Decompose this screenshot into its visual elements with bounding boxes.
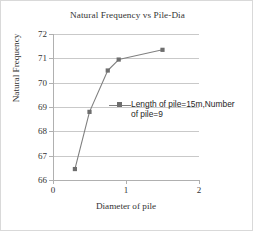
data-point [106, 68, 110, 72]
y-tick-label-71: 71 [27, 53, 47, 63]
y-tick-label-67: 67 [27, 151, 47, 161]
y-axis-line [53, 34, 54, 181]
y-tick-mark-70 [49, 83, 53, 84]
y-tick-label-66: 66 [27, 175, 47, 185]
y-tick-mark-68 [49, 131, 53, 132]
y-tick-mark-67 [49, 156, 53, 157]
data-point [160, 48, 164, 52]
x-tick-mark-2 [199, 180, 200, 184]
y-tick-mark-72 [49, 34, 53, 35]
legend-label-line1: Length of pile=15m,Number [131, 99, 235, 109]
y-tick-label-68: 68 [27, 126, 47, 136]
y-tick-mark-71 [49, 58, 53, 59]
y-tick-mark-69 [49, 107, 53, 108]
x-tick-mark-0 [53, 180, 54, 184]
x-tick-mark-1 [126, 180, 127, 184]
data-point [117, 57, 121, 61]
y-axis-title: Natural Frequency [11, 8, 21, 128]
x-tick-label-1: 1 [116, 185, 136, 195]
chart-legend: Length of pile=15m,Number of pile=9 [109, 99, 239, 119]
x-tick-label-0: 0 [43, 185, 63, 195]
y-tick-label-70: 70 [27, 78, 47, 88]
chart-title: Natural Frequency vs Pile-Dia [1, 10, 253, 20]
x-axis-title: Diameter of pile [53, 201, 199, 211]
chart-figure: Natural Frequency vs Pile-Dia Natural Fr… [0, 0, 253, 231]
data-point [73, 167, 77, 171]
y-tick-label-72: 72 [27, 29, 47, 39]
x-tick-label-2: 2 [189, 185, 209, 195]
legend-label-line2: of pile=9 [131, 109, 163, 119]
legend-label: Length of pile=15m,Number of pile=9 [131, 99, 239, 119]
legend-marker-icon [109, 100, 131, 111]
data-point [87, 110, 91, 114]
y-tick-label-69: 69 [27, 102, 47, 112]
legend-entry: Length of pile=15m,Number of pile=9 [109, 99, 239, 119]
